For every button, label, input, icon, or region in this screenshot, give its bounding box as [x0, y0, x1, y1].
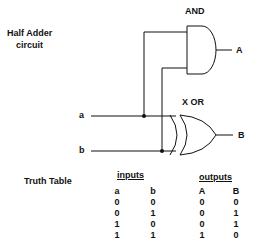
wire-b-to-and	[162, 68, 187, 151]
wire-a-to-and	[144, 32, 187, 116]
cell: 1	[147, 230, 159, 240]
cell: 1	[111, 219, 123, 229]
inputs-header: inputs	[117, 170, 144, 180]
cell: 0	[196, 219, 208, 229]
outputs-header: outputs	[199, 172, 232, 182]
cell: 1	[147, 208, 159, 218]
cell: 1	[230, 208, 242, 218]
cell: 0	[111, 208, 123, 218]
cell: 0	[147, 197, 159, 207]
col-header-B: B	[230, 186, 242, 196]
cell: 0	[230, 197, 242, 207]
and-gate-icon	[187, 26, 216, 74]
xor-gate-icon	[180, 115, 216, 155]
truth-table-label: Truth Table	[24, 176, 72, 186]
cell: 0	[196, 208, 208, 218]
xor-extra-curve	[170, 115, 177, 155]
cell: 1	[230, 219, 242, 229]
col-header-A: A	[196, 186, 208, 196]
cell: 0	[230, 230, 242, 240]
col-header-b: b	[147, 186, 159, 196]
cell: 0	[196, 197, 208, 207]
junction-dot-b	[160, 149, 164, 153]
cell: 1	[196, 230, 208, 240]
junction-dot-a	[142, 114, 146, 118]
cell: 1	[111, 230, 123, 240]
col-header-a: a	[111, 186, 123, 196]
cell: 0	[147, 219, 159, 229]
cell: 0	[111, 197, 123, 207]
half-adder-schematic	[0, 0, 257, 250]
